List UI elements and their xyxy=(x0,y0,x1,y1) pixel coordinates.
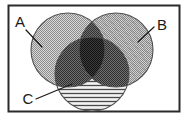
venn-diagram-figure: A B C xyxy=(0,0,188,119)
label-b: B xyxy=(157,16,167,33)
label-c: C xyxy=(23,90,34,107)
venn-diagram-canvas: A B C xyxy=(0,0,188,119)
label-a: A xyxy=(15,13,25,30)
